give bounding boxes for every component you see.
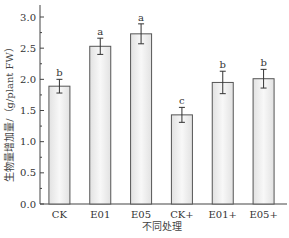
bar-rect bbox=[253, 79, 274, 204]
significance-label: a bbox=[138, 12, 144, 23]
y-axis-title: 生物量增加量/（g/plant FW） bbox=[3, 42, 15, 182]
y-tick-label: 3.0 bbox=[20, 12, 36, 23]
significance-label: b bbox=[260, 57, 266, 68]
x-tick-label: CK+ bbox=[170, 209, 194, 220]
x-axis-title: 不同处理 bbox=[142, 221, 182, 232]
y-tick-label: 1.0 bbox=[20, 136, 36, 147]
bar-ck-plus: cCK+ bbox=[170, 95, 194, 220]
y-tick-label: 2.5 bbox=[20, 43, 36, 54]
y-tick-label: 0.5 bbox=[20, 167, 36, 178]
bar-rect bbox=[90, 46, 111, 204]
x-tick-label: E05 bbox=[131, 209, 151, 220]
bar-rect bbox=[49, 86, 70, 204]
y-tick-label: 1.5 bbox=[20, 105, 36, 116]
y-axis: 0.00.51.01.52.02.53.0 bbox=[20, 5, 44, 210]
bar-e05-plus: bE05+ bbox=[249, 57, 277, 220]
x-tick-label: E05+ bbox=[249, 209, 277, 220]
bar-e05: aE05 bbox=[131, 12, 152, 220]
x-tick-label: E01 bbox=[90, 209, 110, 220]
bar-rect bbox=[212, 82, 233, 204]
bar-rect bbox=[131, 34, 152, 204]
bar-chart: 0.00.51.01.52.02.53.0 bCKaE01aE05cCK+bE0… bbox=[0, 0, 289, 238]
y-tick-label: 0.0 bbox=[20, 199, 36, 210]
significance-label: c bbox=[179, 95, 185, 106]
significance-label: a bbox=[97, 26, 103, 37]
bar-ck: bCK bbox=[49, 67, 70, 220]
bars: bCKaE01aE05cCK+bE01+bE05+ bbox=[49, 12, 278, 220]
significance-label: b bbox=[220, 59, 226, 70]
significance-label: b bbox=[56, 67, 62, 78]
bar-e01: aE01 bbox=[90, 26, 111, 220]
bar-e01-plus: bE01+ bbox=[209, 59, 237, 220]
bar-rect bbox=[171, 115, 192, 204]
x-tick-label: CK bbox=[52, 209, 68, 220]
x-tick-label: E01+ bbox=[209, 209, 237, 220]
y-tick-label: 2.0 bbox=[20, 74, 36, 85]
